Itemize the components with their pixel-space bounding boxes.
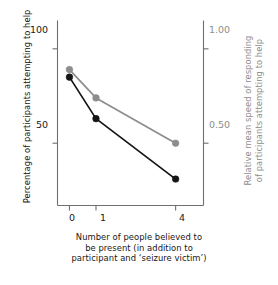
series-line-1 — [69, 70, 175, 144]
axis-ticks — [53, 49, 209, 211]
series-1-point-1 — [93, 95, 100, 102]
data-series-group — [66, 66, 179, 182]
series-1-point-0 — [66, 66, 73, 73]
series-0-point-2 — [172, 176, 179, 183]
series-line-0 — [69, 77, 175, 179]
series-0-point-0 — [66, 74, 73, 81]
axis-frame — [58, 21, 204, 206]
series-1-point-2 — [172, 140, 179, 147]
series-0-point-1 — [93, 115, 100, 122]
plot-area — [0, 0, 278, 285]
chart-figure: Percentage of participants attempting to… — [0, 0, 278, 285]
